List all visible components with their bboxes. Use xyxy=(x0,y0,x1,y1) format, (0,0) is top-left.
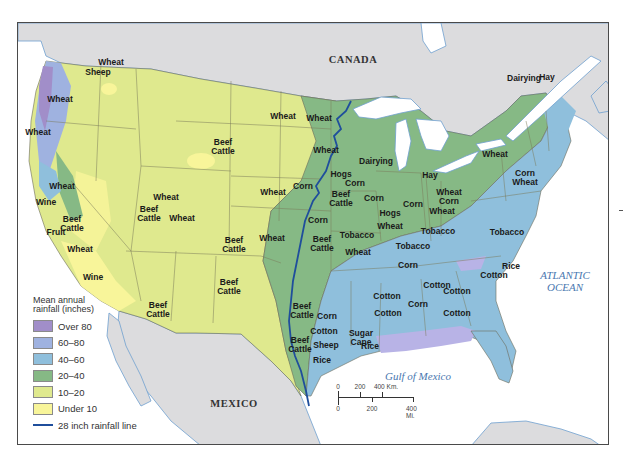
crop-label: Wheat xyxy=(98,58,124,67)
crop-label: Fruit xyxy=(47,228,66,237)
crop-label: Cotton xyxy=(443,309,470,318)
crop-label: Beef Cattle xyxy=(137,205,161,223)
scale-mi-200: 200 xyxy=(367,405,378,412)
crop-label: Hogs xyxy=(379,209,400,218)
crop-label: Cotton xyxy=(480,271,507,280)
scale-mi-400: 400 Mi. xyxy=(406,405,426,419)
crop-label: Wheat xyxy=(429,207,455,216)
crop-label: Corn xyxy=(345,179,365,188)
legend-label: 28 inch rainfall line xyxy=(58,420,137,431)
water-label-atlantic: ATLANTIC OCEAN xyxy=(540,269,590,293)
legend-item-over-80: Over 80 xyxy=(33,318,163,335)
crop-label: Hay xyxy=(539,73,555,82)
crop-label: Wheat xyxy=(49,182,75,191)
crop-label: Wheat xyxy=(377,222,403,231)
crop-label: Sheep xyxy=(85,68,111,77)
crop-label: Wheat xyxy=(47,95,73,104)
country-label-canada: CANADA xyxy=(329,54,378,65)
crop-label: Beef Cattle xyxy=(217,278,241,296)
crop-label: Tobacco xyxy=(340,231,374,240)
crop-label: Wheat xyxy=(67,245,93,254)
legend-swatch-40-60 xyxy=(33,353,53,365)
crop-label: Wheat xyxy=(345,248,371,257)
legend-label: Under 10 xyxy=(58,403,97,414)
crop-label: Cotton xyxy=(443,287,470,296)
crop-label: Wheat xyxy=(270,112,296,121)
cuba-land xyxy=(471,421,601,445)
legend-item-10-20: 10–20 xyxy=(33,384,163,401)
scale-bar: 0 200 400 Km. 0 200 400 Mi. xyxy=(336,383,436,423)
crop-label: Wheat xyxy=(169,214,195,223)
crop-label: Wheat xyxy=(313,146,339,155)
crop-label: Wine xyxy=(36,198,56,207)
country-label-mexico: MEXICO xyxy=(210,398,257,409)
crop-label: Hay xyxy=(422,171,438,180)
crop-label: Wheat xyxy=(306,114,332,123)
crop-label: Wheat xyxy=(153,193,179,202)
legend-label: 20–40 xyxy=(58,370,84,381)
crop-label: Dairying xyxy=(359,157,393,166)
us-zone-under-10-id xyxy=(101,83,117,95)
legend-item-40-60: 40–60 xyxy=(33,351,163,368)
legend-label: 60–80 xyxy=(58,337,84,348)
legend-label: 40–60 xyxy=(58,354,84,365)
crop-label: Corn xyxy=(308,216,328,225)
crop-label: Corn xyxy=(317,312,337,321)
scale-km-200: 200 xyxy=(355,383,366,390)
crop-label: Corn xyxy=(398,261,418,270)
crop-label: Corn xyxy=(408,300,428,309)
legend-swatch-over-80 xyxy=(33,320,53,332)
legend-swatch-under-10 xyxy=(33,403,53,415)
crop-label: Beef Cattle xyxy=(329,190,353,208)
legend-swatch-60-80 xyxy=(33,337,53,349)
crop-label: Beef Cattle xyxy=(211,138,235,156)
crop-label: Cotton xyxy=(373,292,400,301)
crop-label: Corn Wheat xyxy=(512,169,538,187)
crop-label: Tobacco xyxy=(396,242,430,251)
crop-label: Wheat xyxy=(482,150,508,159)
rainfall-legend: Mean annual rainfall (inches) Over 80 60… xyxy=(33,296,163,434)
scale-km-400: 400 Km. xyxy=(374,383,398,390)
legend-label: 10–20 xyxy=(58,387,84,398)
legend-item-under-10: Under 10 xyxy=(33,401,163,418)
crop-label: Rice xyxy=(361,342,379,351)
crop-label: Wheat xyxy=(259,234,285,243)
water-label-gulf: Gulf of Mexico xyxy=(385,370,451,382)
crop-label: Beef Cattle xyxy=(290,302,314,320)
legend-title: Mean annual rainfall (inches) xyxy=(33,296,163,314)
crop-label: Corn xyxy=(403,200,423,209)
crop-label: Cotton xyxy=(374,309,401,318)
crop-label: Corn xyxy=(293,182,313,191)
crop-label: Beef Cattle xyxy=(288,336,312,354)
legend-label: Over 80 xyxy=(58,321,92,332)
legend-swatch-10-20 xyxy=(33,386,53,398)
legend-swatch-20-40 xyxy=(33,370,53,382)
legend-title-line2: rainfall (inches) xyxy=(33,305,163,314)
scale-km-0: 0 xyxy=(336,383,340,390)
crop-label: Dairying xyxy=(507,74,541,83)
scale-tick xyxy=(338,391,339,405)
crop-label: Cotton xyxy=(310,327,337,336)
crop-label: Corn xyxy=(364,194,384,203)
crop-label: Wheat xyxy=(260,188,286,197)
legend-item-60-80: 60–80 xyxy=(33,335,163,352)
crop-label: Tobacco xyxy=(490,228,524,237)
crop-label: Beef Cattle xyxy=(222,236,246,254)
scale-tick xyxy=(372,397,373,402)
crop-label: Wheat xyxy=(25,128,51,137)
crop-label: Wine xyxy=(83,273,103,282)
crop-label: Sheep xyxy=(313,341,339,350)
crop-label: Wheat Corn xyxy=(436,188,462,206)
legend-item-20-40: 20–40 xyxy=(33,368,163,385)
scale-tick xyxy=(413,397,414,402)
crop-label: Beef Cattle xyxy=(310,235,334,253)
scale-bar-line xyxy=(338,397,413,398)
edge-tick-mark xyxy=(619,210,623,211)
crop-label: Rice xyxy=(313,356,331,365)
legend-item-rainfall-line: 28 inch rainfall line xyxy=(33,417,163,434)
crop-label: Tobacco xyxy=(421,227,455,236)
scale-mi-0: 0 xyxy=(336,405,340,412)
rainfall-line-sample xyxy=(33,424,53,426)
